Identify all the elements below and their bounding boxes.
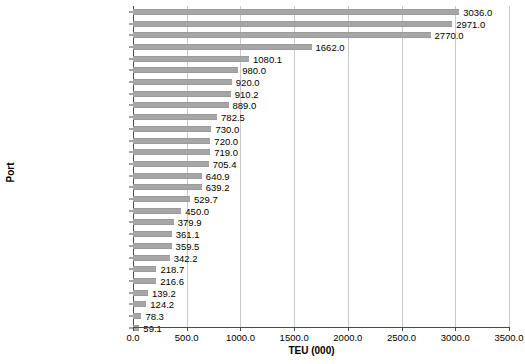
- bar-value-label: 139.2: [148, 287, 176, 298]
- bar-row: Lobito78.3: [133, 310, 509, 322]
- x-tick-label: 1000.0: [226, 332, 255, 343]
- bar-value-label: 2971.0: [452, 18, 485, 29]
- x-tick-0.0: [133, 327, 134, 331]
- x-tick-500.0: [187, 327, 188, 331]
- bar-row: Damietta719.0: [133, 146, 509, 158]
- bar-row: Rades450.0: [133, 205, 509, 217]
- bar: [133, 56, 249, 62]
- bar-row: Djibouti910.2: [133, 88, 509, 100]
- bar-row: Tema782.5: [133, 111, 509, 123]
- bar-value-label: 2770.0: [431, 30, 464, 41]
- bar-value-label: 1080.1: [249, 53, 282, 64]
- bar-value-label: 1662.0: [312, 41, 345, 52]
- bar-value-label: 640.9: [202, 170, 230, 181]
- bar-value-label: 218.7: [156, 264, 184, 275]
- bar: [133, 255, 170, 261]
- bar: [133, 126, 211, 132]
- bar: [133, 231, 172, 237]
- bar-row: Luanda980.0: [133, 65, 509, 77]
- bar: [133, 114, 217, 120]
- bar: [133, 161, 209, 167]
- bar-value-label: 529.7: [190, 194, 218, 205]
- bar-row: Port Said3036.0: [133, 6, 509, 18]
- x-tick-2500.0: [402, 327, 403, 331]
- x-tick-label: 3500.0: [494, 332, 523, 343]
- bar: [133, 184, 202, 190]
- bar-value-label: 720.0: [210, 135, 238, 146]
- x-tick-label: 500.0: [175, 332, 199, 343]
- bar-value-label: 379.9: [174, 217, 202, 228]
- bar-row: Beira218.7: [133, 263, 509, 275]
- bar: [133, 278, 156, 284]
- bar-value-label: 361.1: [172, 229, 200, 240]
- x-tick-label: 1500.0: [280, 332, 309, 343]
- bar: [133, 313, 141, 319]
- x-axis-title-text: TEU (000): [288, 345, 334, 356]
- bar-chart: Port Port Said3036.0Tanger-Med2971.0Durb…: [0, 0, 525, 364]
- bar: [133, 21, 452, 27]
- bar-value-label: 450.0: [181, 205, 209, 216]
- bar: [133, 44, 312, 50]
- bar: [133, 91, 231, 97]
- x-tick-label: 2000.0: [333, 332, 362, 343]
- bar-row: Walvis Bay359.5: [133, 240, 509, 252]
- bar: [133, 208, 181, 214]
- x-tick-3500.0: [509, 327, 510, 331]
- bar-value-label: 639.2: [202, 182, 230, 193]
- bar: [133, 102, 229, 108]
- x-tick-1500.0: [294, 327, 295, 331]
- bar: [133, 173, 202, 179]
- bar-row: Point Noire720.0: [133, 135, 509, 147]
- bar-value-label: 342.2: [170, 252, 198, 263]
- y-axis-title: Port: [2, 142, 18, 202]
- bar: [133, 9, 459, 15]
- bar-row: Abidjan640.9: [133, 170, 509, 182]
- bar: [133, 32, 431, 38]
- bar-row: Douala379.9: [133, 217, 509, 229]
- bar-value-label: 920.0: [232, 77, 260, 88]
- bar-row: Mombasa1080.1: [133, 53, 509, 65]
- bar: [133, 219, 174, 225]
- bar-row: Port Sudan342.2: [133, 252, 509, 264]
- bar-value-label: 3036.0: [459, 6, 492, 17]
- plot-area: Port Said3036.0Tanger-Med2971.0Durban277…: [133, 6, 509, 327]
- bar-row: Port Louis361.1: [133, 228, 509, 240]
- bar-row: Toamasina139.2: [133, 287, 509, 299]
- bar-value-label: 910.2: [231, 88, 259, 99]
- bar-row: Maputo124.2: [133, 299, 509, 311]
- x-tick-label: 3000.0: [441, 332, 470, 343]
- bar: [133, 138, 210, 144]
- x-axis-title: TEU (000): [0, 345, 525, 356]
- x-tick-2000.0: [348, 327, 349, 331]
- bar-row: Nyqura705.4: [133, 158, 509, 170]
- bar-value-label: 78.3: [141, 311, 164, 322]
- gridline-3500.0: [509, 6, 510, 327]
- bar-row: Cape Town889.0: [133, 100, 509, 112]
- bar-row: Port Elizabeth216.6: [133, 275, 509, 287]
- bar-row: Algiers730.0: [133, 123, 509, 135]
- bar-value-label: 216.6: [156, 275, 184, 286]
- bar: [133, 196, 190, 202]
- bar: [133, 301, 146, 307]
- bar: [133, 290, 148, 296]
- y-axis-title-text: Port: [5, 162, 16, 182]
- bar-row: Dakar529.7: [133, 193, 509, 205]
- bar-value-label: 889.0: [229, 100, 257, 111]
- bar-row: Tanger-Med2971.0: [133, 18, 509, 30]
- x-tick-1000.0: [240, 327, 241, 331]
- bar-row: Lagos920.0: [133, 76, 509, 88]
- bar-row: Alexandria/El-Dekheila1662.0: [133, 41, 509, 53]
- bar-value-label: 980.0: [238, 65, 266, 76]
- bar-value-label: 782.5: [217, 112, 245, 123]
- bar-value-label: 124.2: [146, 299, 174, 310]
- bar: [133, 67, 238, 73]
- bar-value-label: 730.0: [211, 123, 239, 134]
- bar-row: Dar es Salaam639.2: [133, 182, 509, 194]
- x-axis-line: [133, 327, 510, 328]
- bar-value-label: 705.4: [209, 158, 237, 169]
- x-tick-label: 2500.0: [387, 332, 416, 343]
- bar: [133, 149, 210, 155]
- x-tick-label: 0.0: [126, 332, 139, 343]
- bar-row: Durban2770.0: [133, 29, 509, 41]
- x-tick-3000.0: [455, 327, 456, 331]
